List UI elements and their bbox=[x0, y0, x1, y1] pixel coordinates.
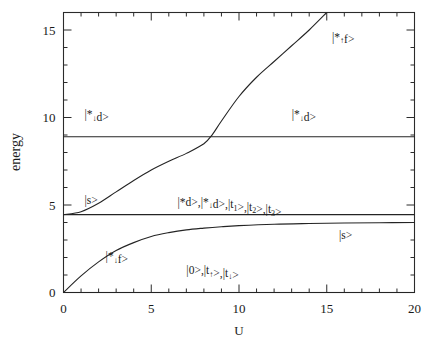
data-series-layer bbox=[64, 13, 415, 293]
y-tick-label-0: 0 bbox=[49, 285, 56, 300]
y-tick-label-3: 15 bbox=[43, 23, 56, 38]
y-axis-tick-labels: 051015 bbox=[43, 23, 56, 301]
energy-vs-u-chart: 05101520 051015 |*↓d>|*↓d>|*↑f>|s>|s>|*d… bbox=[0, 0, 431, 346]
x-tick-label-4: 20 bbox=[408, 301, 421, 316]
y-tick-label-2: 10 bbox=[43, 110, 56, 125]
figure-root: 05101520 051015 |*↓d>|*↓d>|*↑f>|s>|s>|*d… bbox=[0, 0, 431, 346]
ann-star-dn-d-left: |*↓d> bbox=[85, 108, 109, 123]
ann-star-up-f-top: |*↑f> bbox=[332, 31, 354, 46]
x-axis-tick-labels: 05101520 bbox=[60, 301, 421, 316]
ann-s-right: |s> bbox=[339, 229, 352, 242]
x-tick-label-2: 10 bbox=[233, 301, 246, 316]
x-tick-label-3: 15 bbox=[320, 301, 333, 316]
y-axis-title: energy bbox=[8, 133, 23, 171]
x-axis-title: U bbox=[234, 323, 244, 338]
ann-star-dn-d-right: |*↓d> bbox=[292, 108, 316, 123]
ann-star-up-f-low: |*↓f> bbox=[106, 250, 128, 265]
x-tick-label-1: 5 bbox=[148, 301, 155, 316]
x-tick-label-0: 0 bbox=[60, 301, 67, 316]
annotation-layer: |*↓d>|*↓d>|*↑f>|s>|s>|*d>,|*↓d>,|t1>,|t2… bbox=[85, 31, 355, 282]
ann-s-left: |s> bbox=[85, 194, 98, 207]
y-tick-label-1: 5 bbox=[49, 198, 56, 213]
ann-ground: |0>,|t↑>,|t↓> bbox=[186, 264, 238, 281]
